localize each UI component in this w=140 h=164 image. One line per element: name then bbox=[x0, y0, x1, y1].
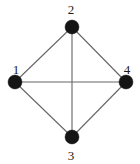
graph-node-label-2: 2 bbox=[68, 3, 75, 16]
graph-node-label-4: 4 bbox=[124, 63, 131, 76]
graph-node-label-1: 1 bbox=[13, 63, 20, 76]
graph-node-1 bbox=[8, 75, 22, 89]
graph-node-4 bbox=[119, 75, 133, 89]
graph-node-2 bbox=[65, 20, 79, 34]
graph-edge-1-3 bbox=[15, 82, 72, 137]
graph-edge-1-2 bbox=[15, 27, 72, 82]
graph-node-label-3: 3 bbox=[68, 149, 75, 162]
graph-figure: 1234 bbox=[0, 0, 140, 164]
graph-edge-2-4 bbox=[72, 27, 126, 82]
graph-canvas bbox=[0, 0, 140, 164]
graph-edge-3-4 bbox=[72, 82, 126, 137]
edges-group bbox=[15, 27, 126, 137]
graph-node-3 bbox=[65, 130, 79, 144]
